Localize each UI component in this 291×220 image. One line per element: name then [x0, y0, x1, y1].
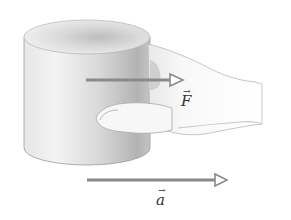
vector-arrow-icon: →: [158, 186, 166, 195]
force-label: → F: [181, 94, 191, 109]
physics-diagram: [0, 0, 291, 220]
vector-arrow-icon: →: [183, 87, 191, 96]
cylinder: [24, 20, 150, 165]
acceleration-arrow: [87, 174, 227, 186]
acceleration-label: → a: [156, 193, 165, 208]
